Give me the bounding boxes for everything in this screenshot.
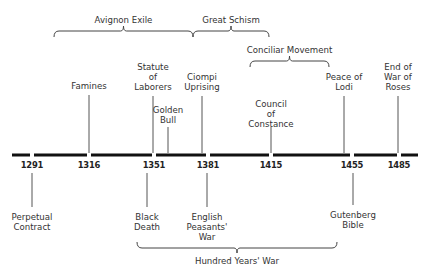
period-label: Avignon Exile bbox=[95, 15, 153, 25]
event-label: Gutenberg Bible bbox=[330, 210, 376, 230]
event-label: Statute of Laborers bbox=[134, 62, 171, 92]
period-brace bbox=[250, 56, 329, 67]
period-brace bbox=[193, 26, 269, 37]
period-label: Great Schism bbox=[202, 15, 260, 25]
year-label: 1455 bbox=[341, 160, 364, 170]
event-label: Famines bbox=[71, 81, 106, 91]
period-label: Conciliar Movement bbox=[247, 45, 333, 55]
period-brace bbox=[54, 26, 193, 37]
period-brace bbox=[137, 242, 337, 253]
timeline-diagram: 1291131613511381141514551485FaminesStatu… bbox=[0, 0, 427, 271]
year-label: 1415 bbox=[260, 160, 283, 170]
period-label: Hundred Years' War bbox=[195, 256, 279, 266]
event-label: English Peasants' War bbox=[187, 212, 228, 242]
year-label: 1291 bbox=[21, 160, 44, 170]
year-label: 1351 bbox=[143, 160, 166, 170]
event-label: End of War of Roses bbox=[384, 62, 412, 92]
event-label: Peace of Lodi bbox=[326, 72, 362, 92]
year-label: 1381 bbox=[197, 160, 220, 170]
year-label: 1485 bbox=[388, 160, 411, 170]
year-label: 1316 bbox=[78, 160, 101, 170]
event-label: Black Death bbox=[134, 212, 160, 232]
event-label: Council of Constance bbox=[248, 99, 293, 129]
event-label: Ciompi Uprising bbox=[184, 72, 219, 92]
cropped-title bbox=[8, 0, 178, 2]
event-label: Perpetual Contract bbox=[12, 212, 53, 232]
event-label: Golden Bull bbox=[153, 105, 184, 125]
